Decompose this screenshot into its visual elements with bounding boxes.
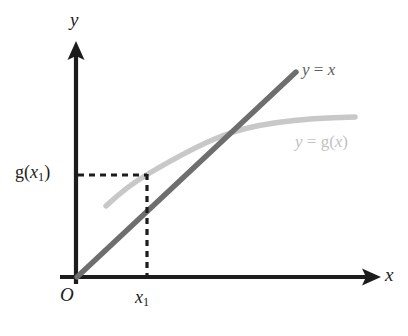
curve-label-g: y = g(x)	[295, 133, 348, 150]
x-axis-label: x	[385, 265, 393, 284]
y-tick-prefix: g(	[15, 162, 30, 182]
curve-identity-line	[77, 72, 296, 277]
origin-label: O	[60, 285, 74, 304]
x-tick-base: x	[135, 287, 143, 307]
g-label-g-open: g(	[321, 132, 335, 151]
g-label-y: y	[295, 132, 303, 151]
y-axis-label: y	[70, 10, 78, 29]
figure-canvas: y x O x1 g(x1) y = x y = g(x)	[0, 0, 408, 336]
y-tick-label-g-of-x1: g(x1)	[15, 163, 50, 181]
x-tick-subscript: 1	[143, 295, 149, 309]
x-tick-label-x1: x1	[135, 288, 149, 306]
g-label-close: )	[342, 132, 348, 151]
y-tick-base: x	[30, 162, 38, 182]
identity-label-x: x	[328, 60, 336, 79]
curve-label-identity: y = x	[302, 61, 335, 78]
g-label-equals: =	[307, 132, 317, 151]
y-tick-suffix: )	[44, 162, 50, 182]
identity-label-y: y	[302, 60, 310, 79]
identity-label-equals: =	[314, 60, 324, 79]
